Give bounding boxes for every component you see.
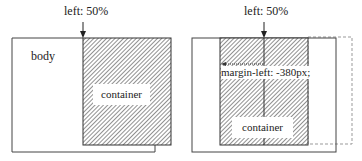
diagram-graphics	[0, 0, 362, 161]
arrow-head-icon	[261, 31, 267, 38]
left-position-label: left: 50%	[64, 5, 108, 17]
diagram: left: 50% body container left: 50% margi…	[0, 0, 362, 161]
container-label: container	[93, 84, 150, 105]
container-label: container	[232, 117, 293, 138]
arrow-head-icon	[80, 31, 86, 38]
margin-left-label: margin-left: -380px;	[221, 66, 310, 79]
dashed-offset-box	[308, 37, 352, 144]
body-label: body	[31, 50, 55, 62]
right-position-label: left: 50%	[244, 5, 288, 17]
